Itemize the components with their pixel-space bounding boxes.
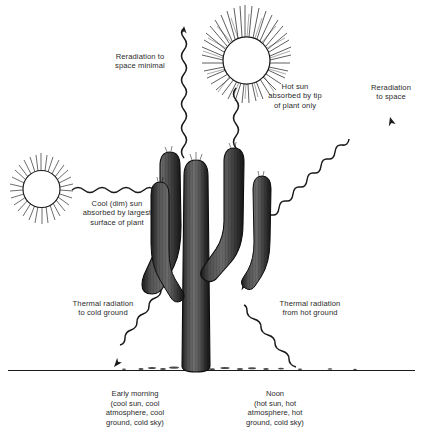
wavy-arrow-reradiation-minimal bbox=[182, 28, 187, 158]
label-cool-sun: Cool (dim) sun absorbed by largest surfa… bbox=[58, 199, 176, 227]
label-reradiation-space: Reradiation to space bbox=[360, 83, 422, 102]
wavy-arrow-cool-sun bbox=[72, 188, 154, 193]
label-thermal-hot-ground: Thermal radiation from hot ground bbox=[258, 299, 362, 318]
label-hot-sun: Hot sun absorbed by tip of plant only bbox=[243, 82, 347, 110]
label-thermal-cold-ground: Thermal radiation to cold ground bbox=[53, 299, 153, 318]
wavy-arrow-reradiation-space bbox=[265, 139, 349, 222]
arrowhead-down-left bbox=[114, 358, 122, 367]
caption-noon: Noon (hot sun, hot atmosphere, hot groun… bbox=[212, 389, 338, 427]
label-reradiation-minimal: Reradiation to space minimal bbox=[88, 52, 192, 71]
saguaro-cactus bbox=[142, 142, 271, 372]
arrowhead-up-right bbox=[389, 117, 396, 126]
ground-speckle bbox=[122, 366, 357, 370]
caption-early-morning: Early morning (cool sun, cool atmosphere… bbox=[72, 389, 198, 427]
